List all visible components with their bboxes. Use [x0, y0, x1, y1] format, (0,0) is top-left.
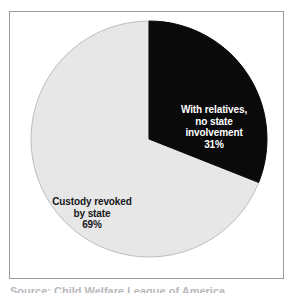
slice-label-line-2: no state: [195, 116, 233, 127]
slice-label-line-1: With relatives,: [181, 104, 247, 115]
slice-label-line-1: Custody revoked: [52, 196, 132, 207]
slice-label-with-relatives: With relatives, no state involvement 31%: [162, 104, 266, 150]
slice-value-with-relatives: 31%: [162, 139, 266, 151]
figure-caption: Source: Child Welfare League of America: [10, 285, 285, 293]
slice-label-line-3: involvement: [185, 127, 242, 138]
pie-chart-figure: With relatives, no state involvement 31%…: [0, 0, 295, 293]
chart-panel: With relatives, no state involvement 31%…: [9, 11, 284, 279]
slice-value-custody-revoked: 69%: [34, 219, 150, 231]
slice-label-custody-revoked: Custody revoked by state 69%: [34, 196, 150, 231]
slice-label-line-2: by state: [74, 208, 111, 219]
